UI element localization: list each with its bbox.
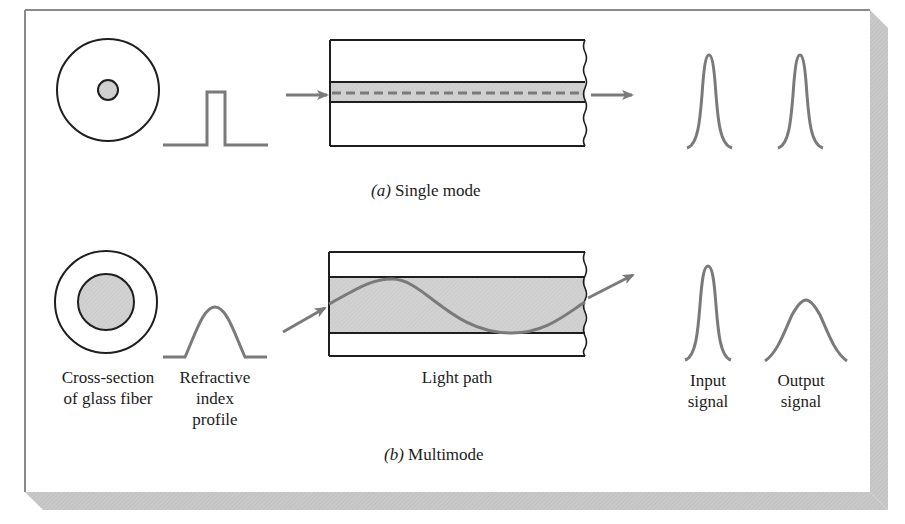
caption-multimode: (b) Multimode: [384, 445, 484, 465]
label-cross-section: Cross-section of glass fiber: [44, 367, 172, 409]
label-line: signal: [762, 391, 840, 412]
label-line: Light path: [400, 367, 514, 388]
label-line: signal: [675, 391, 741, 412]
caption-text-b: Multimode: [408, 445, 484, 464]
label-output-signal: Output signal: [762, 370, 840, 412]
caption-letter-b: (b): [384, 445, 404, 464]
label-line: Cross-section: [44, 367, 172, 388]
multimode-cross-section: [55, 251, 157, 353]
label-input-signal: Input signal: [675, 370, 741, 412]
caption-single-mode: (a) Single mode: [371, 181, 481, 201]
label-line: index: [172, 388, 258, 409]
label-refractive-index-profile: Refractive index profile: [172, 367, 258, 430]
label-line: Refractive: [172, 367, 258, 388]
caption-letter-a: (a): [371, 181, 391, 200]
label-light-path: Light path: [400, 367, 514, 388]
fiber-optic-diagram: (a) Single mode (b) Multimode Cross-sect…: [0, 0, 905, 524]
single-mode-cross-section: [57, 39, 159, 141]
label-line: Input: [675, 370, 741, 391]
label-line: profile: [172, 409, 258, 430]
caption-text-a: Single mode: [395, 181, 480, 200]
label-line: of glass fiber: [44, 388, 172, 409]
label-line: Output: [762, 370, 840, 391]
